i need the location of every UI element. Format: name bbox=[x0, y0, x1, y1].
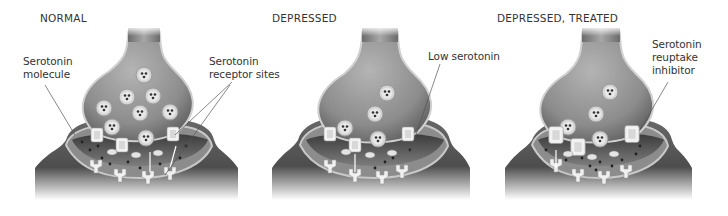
synapse-illustration bbox=[0, 0, 728, 216]
label-serotonin-receptor-sites: Serotonin receptor sites bbox=[209, 55, 280, 81]
synapse-diagram: NORMAL DEPRESSED DEPRESSED, TREATED Sero… bbox=[0, 0, 728, 216]
label-low-serotonin: Low serotonin bbox=[428, 50, 500, 63]
panel-title-depressed: DEPRESSED bbox=[272, 12, 337, 25]
label-serotonin-molecule: Serotonin molecule bbox=[23, 55, 73, 81]
label-serotonin-reuptake-inhibitor: Serotonin reuptake inhibitor bbox=[652, 38, 702, 77]
panel-title-treated: DEPRESSED, TREATED bbox=[497, 12, 618, 25]
panel-normal-illustration bbox=[35, 26, 238, 200]
panel-title-normal: NORMAL bbox=[40, 12, 87, 25]
